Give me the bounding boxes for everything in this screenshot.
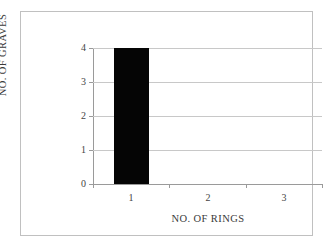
x-axis-title: NO. OF RINGS	[93, 213, 323, 224]
y-tick-mark	[89, 82, 93, 83]
plot-area: 01234	[93, 48, 322, 184]
y-tick-label: 1	[81, 145, 86, 155]
x-tick-mark	[322, 184, 323, 188]
x-tick-mark	[246, 184, 247, 188]
y-axis-title: NO. OF GRAVES	[0, 0, 10, 124]
y-tick-label: 4	[81, 43, 86, 53]
x-axis-line	[93, 184, 323, 185]
bar	[114, 48, 149, 184]
y-tick-label: 0	[81, 179, 86, 189]
y-tick-label: 2	[81, 111, 86, 121]
y-tick-mark	[89, 48, 93, 49]
x-tick-label: 2	[206, 192, 211, 203]
chart-figure: NO. OF GRAVES 01234 NO. OF RINGS 123	[0, 0, 330, 246]
x-tick-mark	[169, 184, 170, 188]
y-tick-label: 3	[81, 77, 86, 87]
x-tick-label: 1	[129, 192, 134, 203]
y-tick-mark	[89, 150, 93, 151]
x-tick-label: 3	[282, 192, 287, 203]
y-tick-mark	[89, 116, 93, 117]
figure-frame: NO. OF GRAVES 01234 NO. OF RINGS 123	[20, 11, 313, 236]
x-tick-mark	[93, 184, 94, 188]
